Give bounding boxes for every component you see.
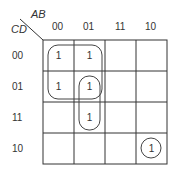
row-var-label: CD bbox=[11, 23, 27, 35]
cell-10-00 bbox=[43, 133, 74, 164]
cell-01-10 bbox=[136, 71, 167, 102]
col-label-11: 11 bbox=[115, 21, 125, 32]
cell-11-00 bbox=[43, 102, 74, 133]
col-label-00: 00 bbox=[52, 21, 63, 32]
cell-11-10 bbox=[136, 102, 167, 133]
cell-01-11 bbox=[105, 71, 136, 102]
cell-00-10 bbox=[136, 40, 167, 71]
col-var-label: AB bbox=[31, 8, 46, 20]
cell-10-01 bbox=[74, 133, 105, 164]
cell-01-00: 1 bbox=[43, 71, 74, 102]
cell-10-10: 1 bbox=[136, 133, 167, 164]
row-label-11: 11 bbox=[12, 112, 22, 123]
col-label-10: 10 bbox=[145, 21, 156, 32]
cell-01-01: 1 bbox=[74, 71, 105, 102]
col-label-01: 01 bbox=[83, 21, 94, 32]
cell-10-11 bbox=[105, 133, 136, 164]
row-label-01: 01 bbox=[12, 81, 23, 92]
row-label-10: 10 bbox=[12, 143, 23, 154]
cell-00-01: 1 bbox=[74, 40, 105, 71]
row-label-00: 00 bbox=[12, 50, 23, 61]
cell-11-01: 1 bbox=[74, 102, 105, 133]
cell-00-00: 1 bbox=[43, 40, 74, 71]
cell-00-11 bbox=[105, 40, 136, 71]
cell-11-11 bbox=[105, 102, 136, 133]
